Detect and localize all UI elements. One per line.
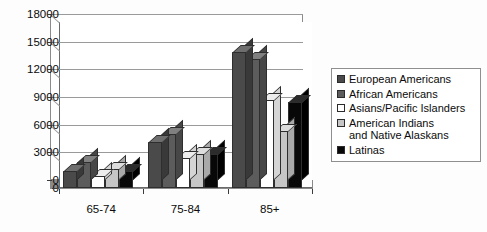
x-axis-tick-mark (228, 189, 229, 194)
legend-item-3: Asians/Pacific Islanders (337, 102, 475, 115)
legend-swatch (337, 104, 345, 112)
bars-layer (59, 22, 312, 188)
y-axis-tick-label: 12000 (13, 64, 59, 74)
legend-item-1: European Americans (337, 73, 475, 86)
bar-side (203, 140, 211, 181)
y-axis-tick-mark (47, 152, 52, 153)
chart-legend: European AmericansAfrican AmericansAsian… (331, 68, 481, 162)
y-axis-tick-label: 9000 (13, 92, 59, 102)
bar-side (245, 37, 253, 181)
y-axis-tick-label: 3000 (13, 147, 59, 157)
y-axis-tick-mark (47, 97, 52, 98)
gridline (50, 14, 303, 15)
legend-label: Latinas (349, 144, 384, 157)
x-axis-tick-mark (59, 189, 60, 194)
x-axis-tick-mark (143, 189, 144, 194)
y-axis-tick-label: 18000 (13, 9, 59, 19)
y-axis-tick-label: 6000 (13, 120, 59, 130)
legend-item-5: Latinas (337, 144, 475, 157)
y-axis-tick-mark (47, 14, 52, 15)
legend-label: African Americans (349, 88, 438, 101)
x-axis-tick-mark (312, 189, 313, 194)
bar-side (189, 143, 197, 181)
bar-3-1 (232, 52, 246, 188)
legend-item-4: American Indians and Native Alaskans (337, 117, 475, 142)
legend-swatch (337, 75, 345, 83)
y-axis-tick-mark (47, 69, 52, 70)
legend-label: Asians/Pacific Islanders (349, 102, 465, 115)
y-axis: 03000600090001200015000180000 (0, 0, 59, 232)
legend-label: American Indians and Native Alaskans (349, 117, 449, 142)
y-axis-tick-mark (47, 42, 52, 43)
x-axis-tick-label: 65-74 (61, 203, 141, 215)
legend-item-2: African Americans (337, 88, 475, 101)
y-axis-tick-label: 15000 (13, 37, 59, 47)
bar-side (259, 45, 267, 181)
legend-swatch (337, 119, 345, 127)
x-axis-tick-label: 85+ (230, 203, 310, 215)
bar-face (232, 52, 246, 188)
bar-face (63, 171, 77, 188)
bar-2-1 (148, 142, 162, 188)
y-axis-tick-mark-zero (52, 188, 57, 189)
bar-1-1 (63, 171, 77, 188)
x-axis-tick-label: 75-84 (146, 203, 226, 215)
bar-chart: 03000600090001200015000180000 65-7475-84… (0, 0, 487, 232)
legend-label: European Americans (349, 73, 451, 86)
bar-side (217, 140, 225, 181)
y-axis-tick-mark (47, 180, 52, 181)
y-axis-tick-mark (47, 125, 52, 126)
legend-swatch (337, 90, 345, 98)
bar-face (148, 142, 162, 188)
legend-swatch (337, 146, 345, 154)
